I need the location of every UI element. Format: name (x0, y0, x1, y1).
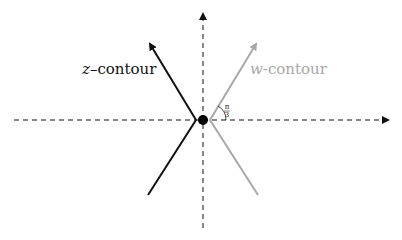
origin-point (198, 115, 208, 125)
z-contour-label: z–contour (81, 60, 157, 78)
w-var: w (250, 60, 263, 78)
contour-diagram: z–contour w-contour π 3 (0, 0, 402, 240)
z-suffix: –contour (90, 60, 157, 78)
angle-denominator: 3 (225, 111, 229, 119)
w-suffix: -contour (263, 60, 328, 78)
z-var: z (81, 60, 90, 78)
w-contour-label: w-contour (250, 60, 328, 78)
angle-numerator: π (225, 103, 230, 111)
diagram-canvas: z–contour w-contour π 3 (0, 0, 402, 240)
